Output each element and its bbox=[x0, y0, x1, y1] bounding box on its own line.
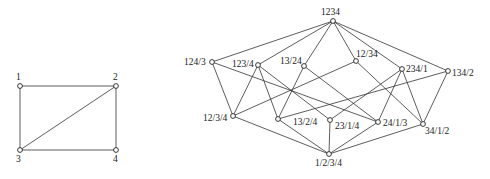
lattice-node-label: 12/34 bbox=[356, 49, 378, 59]
lattice-edge bbox=[333, 21, 356, 61]
lattice-edge bbox=[402, 69, 423, 124]
graph-node bbox=[18, 148, 23, 153]
lattice-node-label: 24/1/3 bbox=[383, 118, 408, 128]
lattice-node bbox=[210, 60, 215, 65]
lattice-edge bbox=[378, 69, 402, 122]
graph-edges bbox=[20, 86, 116, 150]
lattice-node bbox=[446, 69, 451, 74]
lattice-edge bbox=[278, 66, 304, 119]
lattice-node bbox=[256, 63, 261, 68]
graph-node-label: 3 bbox=[16, 154, 21, 164]
lattice-node-label: 23/1/4 bbox=[335, 121, 360, 131]
graph-node bbox=[114, 148, 119, 153]
lattice-edge bbox=[212, 62, 233, 116]
lattice-node bbox=[302, 64, 307, 69]
lattice-edge bbox=[423, 71, 448, 124]
lattice-node-label: 1/2/3/4 bbox=[315, 158, 342, 168]
lattice-node bbox=[400, 67, 405, 72]
lattice-node-label: 1234 bbox=[321, 7, 340, 17]
lattice-node bbox=[327, 152, 332, 157]
lattice-node bbox=[328, 118, 333, 123]
graph-edge bbox=[20, 86, 116, 150]
lattice-node bbox=[354, 59, 359, 64]
lattice-node-label: 13/2/4 bbox=[293, 117, 318, 127]
lattice-node-label: 13/24 bbox=[280, 56, 302, 66]
lattice-node-label: 34/1/2 bbox=[425, 126, 450, 136]
lattice-node bbox=[276, 117, 281, 122]
lattice-node bbox=[331, 19, 336, 24]
lattice-edge bbox=[304, 21, 333, 66]
lattice-node-label: 234/1 bbox=[406, 64, 428, 74]
lattice-node-label: 134/2 bbox=[452, 68, 474, 78]
lattice-edges bbox=[212, 21, 448, 154]
lattice-edge bbox=[333, 21, 402, 69]
lattice-edge bbox=[258, 65, 330, 120]
graph-node-label: 4 bbox=[113, 154, 118, 164]
graph-node-label: 1 bbox=[16, 72, 21, 82]
graph-node-label: 2 bbox=[113, 72, 118, 82]
lattice-edge bbox=[233, 65, 258, 116]
lattice-node-label: 12/3/4 bbox=[203, 113, 228, 123]
lattice-node-label: 124/3 bbox=[184, 57, 206, 67]
lattice-edge bbox=[212, 62, 378, 122]
lattice-edge bbox=[212, 21, 333, 62]
lattice-node bbox=[231, 114, 236, 119]
lattice-edge bbox=[329, 120, 330, 154]
diagram-canvas: 1234 1234124/3123/413/2412/34234/1134/21… bbox=[0, 0, 490, 179]
lattice-node bbox=[376, 120, 381, 125]
graph-node bbox=[114, 84, 119, 89]
lattice-node-label: 123/4 bbox=[232, 59, 254, 69]
graph-node bbox=[18, 84, 23, 89]
